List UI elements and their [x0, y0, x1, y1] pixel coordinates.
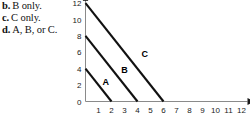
chart-series-lines: [86, 3, 164, 101]
series-label-A: A: [102, 77, 109, 87]
x-tick-3: 3: [122, 106, 127, 115]
x-tick-5: 5: [148, 106, 153, 115]
series-label-B: B: [121, 65, 128, 75]
x-axis-tick-labels: 123456789101112: [96, 106, 246, 115]
y-tick-10: 10: [73, 16, 82, 25]
y-tick-6: 6: [77, 48, 82, 57]
answer-option-b-marker: b.: [2, 0, 10, 11]
x-tick-8: 8: [187, 106, 192, 115]
y-tick-8: 8: [77, 32, 82, 41]
chart-svg: 024681012 123456789101112 ABC X: [66, 0, 250, 123]
answer-option-c-marker: c.: [2, 12, 9, 23]
x-tick-9: 9: [200, 106, 205, 115]
series-line-B: [86, 36, 138, 102]
y-tick-0: 0: [77, 98, 82, 107]
answer-option-d-marker: d.: [2, 24, 10, 35]
figure-container: b.B only. c.C only. d.A, B, or C. 024681…: [0, 0, 250, 123]
x-tick-7: 7: [174, 106, 179, 115]
x-tick-12: 12: [237, 106, 246, 115]
x-tick-2: 2: [109, 106, 114, 115]
series-label-C: C: [141, 49, 148, 59]
answer-option-b-text: B only.: [12, 0, 42, 11]
y-tick-12: 12: [73, 0, 82, 8]
x-tick-11: 11: [224, 106, 233, 115]
answer-option-c-text: C only.: [11, 12, 41, 23]
x-tick-10: 10: [211, 106, 220, 115]
y-tick-2: 2: [77, 81, 82, 90]
x-tick-6: 6: [161, 106, 166, 115]
y-tick-4: 4: [77, 65, 82, 74]
x-axis-arrow-icon: [248, 98, 251, 105]
budget-lines-chart: 024681012 123456789101112 ABC X: [66, 0, 250, 123]
x-tick-1: 1: [96, 106, 101, 115]
answer-option-d-text: A, B, or C.: [12, 24, 57, 35]
x-tick-4: 4: [135, 106, 140, 115]
y-axis-tick-labels: 024681012: [73, 0, 82, 107]
y-axis-top-marker: [83, 0, 88, 1]
